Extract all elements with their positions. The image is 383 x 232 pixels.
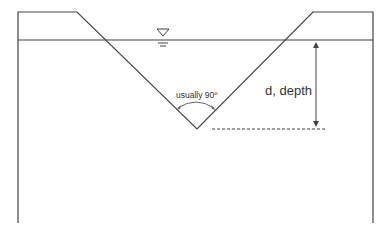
angle-label: usually 90o [176, 90, 218, 100]
angle-arc-arrow-right [211, 105, 216, 110]
angle-arc [178, 102, 214, 108]
depth-arrow-head-bottom [313, 121, 319, 127]
angle-arc-arrow-left [176, 105, 181, 110]
weir-plate-outline [18, 12, 373, 223]
depth-label: d, depth [265, 83, 312, 98]
v-notch-weir-diagram: usually 90o d, depth [0, 0, 383, 232]
water-level-icon [157, 29, 169, 46]
depth-arrow-head-top [313, 42, 319, 48]
